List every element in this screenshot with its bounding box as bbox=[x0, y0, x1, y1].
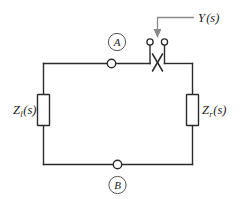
right-impedance-box bbox=[187, 95, 199, 126]
circuit-diagram-canvas: A B Y(s) Zl(s) bbox=[0, 0, 240, 199]
circuit-diagram-figure: A B Y(s) Zl(s) bbox=[0, 0, 240, 199]
left-impedance-label: Zl(s) bbox=[13, 103, 37, 119]
node-b-terminal-circle bbox=[113, 160, 121, 168]
node-a-terminal-circle bbox=[107, 59, 115, 67]
node-b-label: B bbox=[114, 179, 121, 191]
circuit-wires bbox=[44, 64, 193, 165]
admittance-leader bbox=[154, 18, 194, 39]
right-impedance-label: Zr(s) bbox=[202, 103, 226, 119]
left-impedance-box bbox=[38, 95, 50, 126]
arrow-down-icon bbox=[154, 29, 162, 38]
leader-line bbox=[158, 18, 195, 32]
switch-terminal-right-icon bbox=[161, 39, 167, 45]
admittance-argument: (s) bbox=[206, 11, 219, 25]
right-impedance-argument: (s) bbox=[213, 103, 226, 117]
switch-terminal-left-icon bbox=[147, 39, 153, 45]
admittance-label: Y(s) bbox=[198, 11, 219, 25]
switch-element bbox=[147, 39, 168, 71]
node-a-label: A bbox=[113, 36, 121, 48]
left-impedance-argument: (s) bbox=[23, 103, 36, 117]
